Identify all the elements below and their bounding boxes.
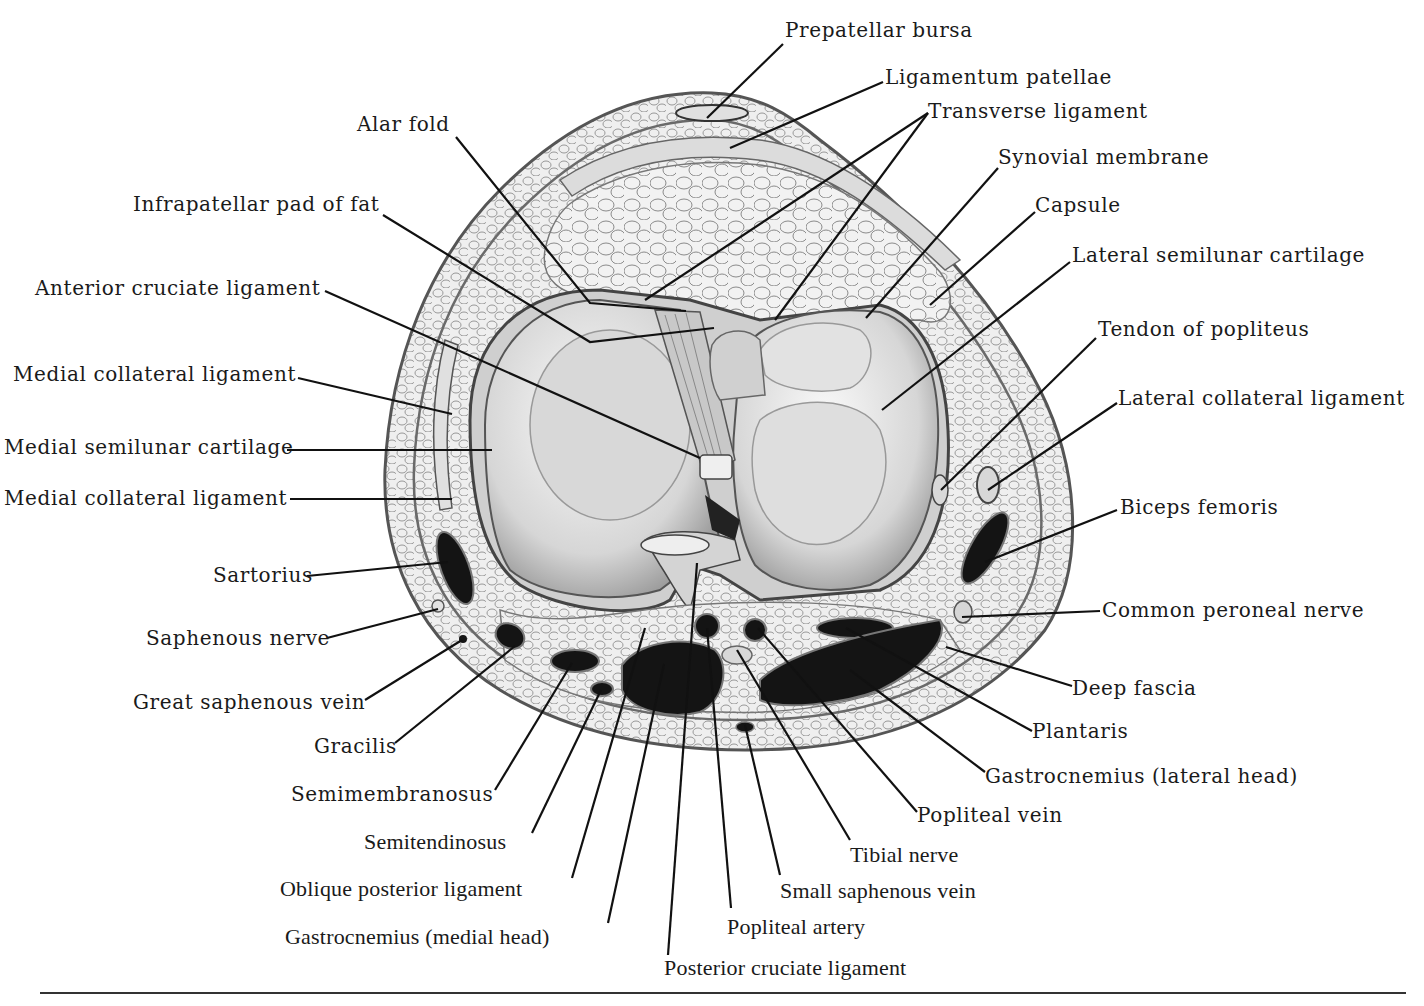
label-medial-collateral-ligament-upper: Medial collateral ligament xyxy=(13,362,296,386)
label-synovial-membrane: Synovial membrane xyxy=(998,145,1209,169)
label-saphenous-nerve: Saphenous nerve xyxy=(146,626,330,650)
label-biceps-femoris: Biceps femoris xyxy=(1120,495,1278,519)
common-peroneal-nerve-shape xyxy=(954,601,972,623)
label-semitendinosus: Semitendinosus xyxy=(364,830,506,854)
label-ligamentum-patellae: Ligamentum patellae xyxy=(885,65,1112,89)
leader-line-gracilis xyxy=(395,646,515,743)
label-semimembranosus: Semimembranosus xyxy=(291,782,493,806)
tibial-nerve-shape xyxy=(722,646,752,664)
bottom-rule-divider xyxy=(40,992,1406,994)
label-lateral-semilunar-cartilage: Lateral semilunar cartilage xyxy=(1072,243,1365,267)
knee-cross-section-diagram: Prepatellar bursa Ligamentum patellae Tr… xyxy=(0,0,1424,1006)
label-anterior-cruciate-ligament: Anterior cruciate ligament xyxy=(35,276,320,300)
pcl-cut-end xyxy=(641,535,709,555)
label-plantaris: Plantaris xyxy=(1032,719,1128,743)
label-lateral-collateral-ligament: Lateral collateral ligament xyxy=(1118,386,1405,410)
label-small-saphenous-vein: Small saphenous vein xyxy=(780,879,976,903)
label-posterior-cruciate-ligament: Posterior cruciate ligament xyxy=(664,956,906,980)
label-gracilis: Gracilis xyxy=(314,734,397,758)
leader-line-saphenous-nerve xyxy=(327,609,438,638)
label-tibial-nerve: Tibial nerve xyxy=(850,843,959,867)
label-deep-fascia: Deep fascia xyxy=(1072,676,1197,700)
label-popliteal-vein: Popliteal vein xyxy=(917,803,1063,827)
medial-tibial-facet xyxy=(530,330,690,520)
label-alar-fold: Alar fold xyxy=(357,112,450,136)
label-medial-collateral-ligament-lower: Medial collateral ligament xyxy=(4,486,287,510)
label-oblique-posterior-ligament: Oblique posterior ligament xyxy=(280,877,522,901)
label-capsule: Capsule xyxy=(1035,193,1121,217)
lateral-tibial-facet-upper xyxy=(760,323,871,391)
label-medial-semilunar-cartilage: Medial semilunar cartilage xyxy=(4,435,293,459)
semitendinosus-muscle xyxy=(591,682,613,696)
label-transverse-ligament: Transverse ligament xyxy=(928,99,1148,123)
label-sartorius: Sartorius xyxy=(213,563,313,587)
label-great-saphenous-vein: Great saphenous vein xyxy=(133,690,365,714)
lateral-ligament-bundle xyxy=(710,331,765,400)
label-common-peroneal-nerve: Common peroneal nerve xyxy=(1102,598,1364,622)
label-infrapatellar-pad-of-fat: Infrapatellar pad of fat xyxy=(133,192,379,216)
popliteal-vein-vessel xyxy=(744,619,766,641)
label-prepatellar-bursa: Prepatellar bursa xyxy=(785,18,973,42)
label-tendon-of-popliteus: Tendon of popliteus xyxy=(1098,317,1309,341)
semimembranosus-muscle xyxy=(551,650,599,672)
label-popliteal-artery: Popliteal artery xyxy=(727,915,865,939)
leader-line-great-saphenous-vein xyxy=(365,640,462,700)
popliteus-tendon-shape xyxy=(932,475,948,505)
label-gastrocnemius-lateral-head: Gastrocnemius (lateral head) xyxy=(985,764,1298,788)
label-gastrocnemius-medial-head: Gastrocnemius (medial head) xyxy=(285,925,549,949)
acl-cut-end xyxy=(700,455,732,479)
